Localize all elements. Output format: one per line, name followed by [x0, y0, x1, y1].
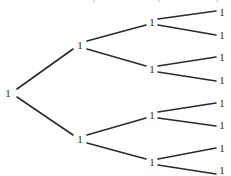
node-leaf-0: 1: [219, 7, 225, 18]
node-leaf-3: 1: [219, 75, 225, 86]
edge-n21-to-leaf5: [158, 103, 216, 112]
edge-n21-to-leaf6: [158, 118, 216, 126]
node-l1-0: 1: [77, 40, 83, 51]
edge-n1-to-n11: [87, 25, 146, 41]
edge-n12-to-leaf3: [158, 57, 216, 66]
node-leaf-5: 1: [219, 120, 225, 131]
edge-n2-to-n22: [87, 143, 146, 159]
node-leaf-7: 1: [219, 165, 225, 176]
edge-n11-to-leaf2: [158, 25, 216, 35]
edge-n11-to-leaf1: [158, 11, 216, 19]
edge-root-to-n1: [17, 49, 73, 89]
node-l2-3: 1: [149, 157, 155, 168]
node-leaf-2: 1: [219, 52, 225, 63]
edge-root-to-n2: [17, 97, 73, 135]
edge-n22-to-leaf8: [158, 165, 216, 174]
node-l2-1: 1: [149, 64, 155, 75]
node-root: 1: [5, 88, 11, 99]
node-l2-0: 1: [149, 17, 155, 28]
edge-n2-to-n21: [87, 118, 146, 135]
edge-n22-to-leaf7: [158, 148, 216, 159]
probability-tree-diagram: Start 1 Flip 2 Flips 3 Flips 1 1 1 1 1 1…: [0, 0, 231, 175]
node-l1-1: 1: [77, 134, 83, 145]
edge-n12-to-leaf4: [158, 72, 216, 81]
node-l2-2: 1: [149, 110, 155, 121]
node-leaf-1: 1: [219, 30, 225, 41]
node-leaf-4: 1: [219, 98, 225, 109]
edge-n1-to-n12: [87, 49, 146, 66]
node-leaf-6: 1: [219, 143, 225, 154]
tree-edges-svg: [0, 0, 231, 175]
